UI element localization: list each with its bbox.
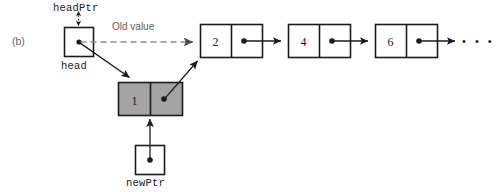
new-node-value: 1: [118, 95, 151, 107]
figure-canvas: (b) headPtr head Old value newPtr 1 2 4 …: [0, 0, 498, 192]
head-pointer-box: [65, 28, 94, 57]
list-node-2-value: 6: [375, 36, 406, 48]
headptr-label: headPtr: [53, 3, 99, 14]
tail-ellipsis: • • •: [462, 36, 495, 47]
head-to-new-node-arrow: [81, 43, 130, 77]
figure-label: (b): [12, 36, 25, 47]
newptr-box: [136, 119, 165, 175]
head-label: head: [61, 61, 87, 72]
old-value-label: Old value: [112, 22, 154, 32]
newptr-label: newPtr: [126, 178, 165, 189]
list-node-1-value: 4: [288, 36, 319, 48]
diagram-vector-layer: [0, 0, 498, 192]
list-node-0-value: 2: [200, 36, 231, 48]
